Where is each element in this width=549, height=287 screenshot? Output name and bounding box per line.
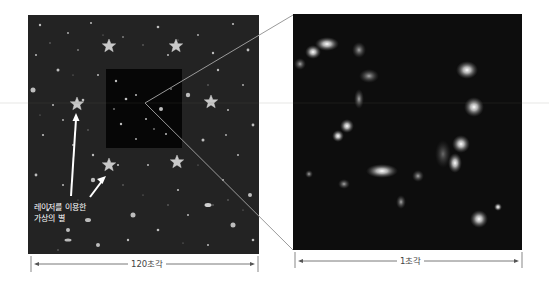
laser-star-icon xyxy=(102,39,115,52)
laser-star-icon xyxy=(169,39,182,52)
laser-star-icon xyxy=(70,97,83,110)
annotation-label-line1: 레이저를 이용한 xyxy=(34,202,86,213)
annotation-label-line2: 가상의 별 xyxy=(34,213,65,224)
laser-star-icon xyxy=(204,95,217,108)
laser-star-icon xyxy=(170,155,183,168)
pointer-arrows xyxy=(71,113,106,197)
deep-field-image: 레이저를 이용한 가상의 별 xyxy=(28,15,259,254)
zoomed-image xyxy=(293,14,522,250)
laser-star-icon xyxy=(102,158,115,171)
right-scale-label: 1초각 xyxy=(397,256,424,266)
left-scale-label: 120초각 xyxy=(128,259,166,269)
einstein-ring-blobs xyxy=(293,14,522,250)
